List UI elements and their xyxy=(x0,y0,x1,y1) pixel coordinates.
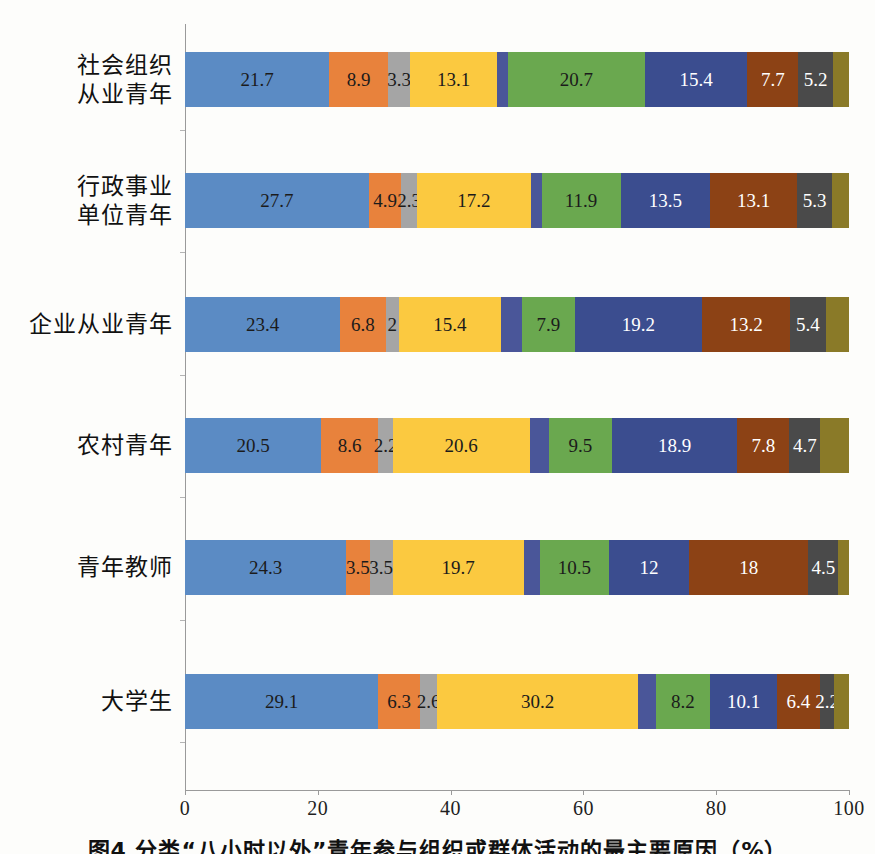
bar-row: 21.78.93.313.120.715.47.75.2 xyxy=(185,52,849,107)
category-label-line: 大学生 xyxy=(0,687,173,716)
bar-segment: 5.3 xyxy=(797,173,832,228)
bar-segment xyxy=(497,52,508,107)
bar-segment-value: 15.4 xyxy=(680,70,713,89)
bar-segment: 18.9 xyxy=(612,418,737,473)
bar-segment: 21.7 xyxy=(185,52,329,107)
bar-segment: 7.7 xyxy=(747,52,798,107)
bar-segment: 2.2 xyxy=(378,418,393,473)
bar-segment: 5.4 xyxy=(790,297,826,352)
x-tick xyxy=(185,790,186,795)
bar-segment-value: 5.3 xyxy=(803,191,827,210)
category-label: 企业从业青年 xyxy=(0,310,173,339)
bar-segment-value: 3.5 xyxy=(369,558,393,577)
bar-segment xyxy=(501,297,522,352)
bar-segment: 10.1 xyxy=(710,674,777,729)
bar-row: 20.58.62.220.69.518.97.84.7 xyxy=(185,418,849,473)
bar-segment xyxy=(832,173,849,228)
bar-segment: 19.7 xyxy=(393,540,524,595)
bar-segment: 6.4 xyxy=(777,674,819,729)
bar-segment-value: 9.5 xyxy=(568,436,592,455)
bar-segment xyxy=(531,173,542,228)
bar-row: 27.74.92.317.211.913.513.15.3 xyxy=(185,173,849,228)
category-label: 农村青年 xyxy=(0,431,173,460)
bar-segment-value: 24.3 xyxy=(249,558,282,577)
bar-segment-value: 4.9 xyxy=(373,191,397,210)
x-tick-label: 0 xyxy=(180,797,191,820)
y-tick xyxy=(180,497,185,498)
bar-segment xyxy=(638,674,656,729)
bar-segment xyxy=(820,418,849,473)
bar-segment-value: 18 xyxy=(739,558,758,577)
bar-segment: 17.2 xyxy=(417,173,531,228)
category-label-line: 社会组织 xyxy=(0,51,173,80)
bar-segment xyxy=(826,297,849,352)
category-label-line: 从业青年 xyxy=(0,80,173,109)
bar-segment: 7.9 xyxy=(522,297,574,352)
bar-segment xyxy=(530,418,549,473)
bar-segment: 15.4 xyxy=(645,52,747,107)
bar-segment: 5.2 xyxy=(798,52,833,107)
bar-segment-value: 7.9 xyxy=(537,315,561,334)
bar-segment: 24.3 xyxy=(185,540,346,595)
bar-segment: 2.3 xyxy=(401,173,416,228)
category-label: 行政事业单位青年 xyxy=(0,172,173,231)
bar-segment-value: 18.9 xyxy=(658,436,691,455)
bar-segment: 29.1 xyxy=(185,674,378,729)
bar-segment xyxy=(833,52,849,107)
y-tick xyxy=(180,252,185,253)
bar-segment: 2 xyxy=(386,297,399,352)
x-tick xyxy=(849,790,850,795)
x-tick-label: 60 xyxy=(573,797,594,820)
bar-segment-value: 13.2 xyxy=(729,315,762,334)
x-tick xyxy=(451,790,452,795)
category-label-line: 企业从业青年 xyxy=(0,310,173,339)
bar-segment: 4.7 xyxy=(789,418,820,473)
x-tick-label: 100 xyxy=(833,797,865,820)
x-tick xyxy=(583,790,584,795)
bar-segment-value: 11.9 xyxy=(565,191,598,210)
bar-segment-value: 10.5 xyxy=(558,558,591,577)
bar-segment-value: 30.2 xyxy=(521,692,554,711)
bar-segment-value: 2 xyxy=(387,315,397,334)
bar-segment-value: 5.2 xyxy=(804,70,828,89)
bar-segment: 3.5 xyxy=(346,540,369,595)
y-tick xyxy=(180,375,185,376)
x-tick-label: 40 xyxy=(440,797,461,820)
bar-segment: 20.5 xyxy=(185,418,321,473)
bar-segment: 23.4 xyxy=(185,297,340,352)
category-label: 大学生 xyxy=(0,687,173,716)
bar-row: 23.46.8215.47.919.213.25.4 xyxy=(185,297,849,352)
bar-segment-value: 4.7 xyxy=(793,436,817,455)
category-label-line: 行政事业 xyxy=(0,172,173,201)
bar-segment: 12 xyxy=(609,540,689,595)
figure-caption: 图4 分类“八小时以外”青年参与组织或群体活动的最主要原因（%） xyxy=(0,832,875,854)
category-label-line: 青年教师 xyxy=(0,553,173,582)
bar-segment: 10.5 xyxy=(540,540,610,595)
bar-segment-value: 3.5 xyxy=(346,558,370,577)
bar-segment: 6.3 xyxy=(378,674,420,729)
bar-segment-value: 6.8 xyxy=(351,315,375,334)
bar-segment-value: 4.5 xyxy=(812,558,836,577)
bar-segment-value: 29.1 xyxy=(265,692,298,711)
bar-segment: 8.6 xyxy=(321,418,378,473)
bar-segment-value: 20.6 xyxy=(445,436,478,455)
bar-segment xyxy=(838,540,849,595)
bar-segment: 19.2 xyxy=(575,297,702,352)
bar-segment-value: 20.5 xyxy=(236,436,269,455)
category-label-line: 单位青年 xyxy=(0,201,173,230)
y-tick xyxy=(180,620,185,621)
bar-segment: 13.2 xyxy=(702,297,790,352)
x-tick-label: 80 xyxy=(706,797,727,820)
bar-segment: 13.1 xyxy=(710,173,797,228)
y-tick xyxy=(180,130,185,131)
bar-segment: 3.5 xyxy=(370,540,393,595)
bar-segment xyxy=(834,674,849,729)
bar-segment-value: 13.1 xyxy=(737,191,770,210)
bar-segment-value: 17.2 xyxy=(457,191,490,210)
bar-row: 24.33.53.519.710.512184.5 xyxy=(185,540,849,595)
bar-segment: 8.9 xyxy=(329,52,388,107)
bar-segment-value: 13.5 xyxy=(649,191,682,210)
bar-segment xyxy=(524,540,540,595)
bar-segment: 3.3 xyxy=(388,52,410,107)
x-tick xyxy=(716,790,717,795)
